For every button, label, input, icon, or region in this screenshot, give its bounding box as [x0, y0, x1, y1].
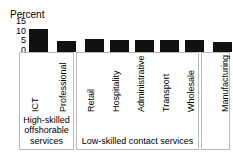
bar-professional — [57, 41, 76, 52]
bar-manufacturing — [213, 42, 232, 52]
bar-slot-wholesale — [185, 21, 204, 52]
y-axis-ticks: 15 10 5 0 — [10, 17, 26, 57]
y-tick-15: 15 — [16, 17, 26, 26]
category-label-ict: ICT — [31, 56, 40, 112]
bar-slot-administrative — [135, 21, 154, 52]
bar-slot-retail — [85, 21, 104, 52]
bar-administrative — [135, 40, 154, 52]
category-label-hospitality: Hospitality — [112, 56, 121, 112]
bar-slot-ict — [29, 21, 48, 52]
plot-area — [27, 21, 227, 52]
category-label-band: ICT Professional High-skilled offshorabl… — [19, 52, 230, 150]
group-caption-high-skilled: High-skilled offshorable services — [20, 115, 73, 147]
y-tick-5: 5 — [21, 36, 26, 45]
bar-slot-transport — [160, 21, 179, 52]
bar-wholesale — [185, 40, 204, 52]
group-box-manufacturing: Manufacturing — [201, 52, 230, 150]
bar-slot-professional — [57, 21, 76, 52]
category-label-transport: Transport — [162, 56, 171, 112]
bar-ict — [29, 29, 48, 52]
bar-transport — [160, 40, 179, 52]
category-label-professional: Professional — [59, 56, 68, 112]
group-box-high-skilled: ICT Professional High-skilled offshorabl… — [19, 52, 74, 150]
category-label-manufacturing: Manufacturing — [221, 56, 230, 112]
category-label-administrative: Administrative — [137, 56, 146, 112]
bar-retail — [85, 39, 104, 52]
bar-chart: Percent 15 10 5 0 ICT Professional High-… — [0, 0, 233, 153]
y-tick-10: 10 — [16, 27, 26, 36]
bar-slot-hospitality — [110, 21, 129, 52]
bar-slot-manufacturing — [213, 21, 232, 52]
category-label-wholesale: Wholesale — [187, 56, 196, 112]
group-caption-low-skilled: Low-skilled contact services — [77, 136, 198, 147]
category-label-retail: Retail — [87, 56, 96, 112]
bar-hospitality — [110, 40, 129, 52]
group-box-low-skilled: Retail Hospitality Administrative Transp… — [76, 52, 199, 150]
